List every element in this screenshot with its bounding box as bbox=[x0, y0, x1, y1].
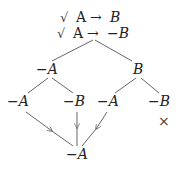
arrow-n5-conclusion bbox=[82, 129, 96, 146]
premise-1: √ A → B bbox=[60, 9, 120, 25]
edge-n1-n3 bbox=[28, 78, 48, 93]
edge-n1-n4 bbox=[52, 78, 73, 93]
node-n1: −A bbox=[36, 61, 58, 77]
premise-2-right: −B bbox=[107, 25, 129, 41]
edge-n2-n5 bbox=[115, 78, 136, 93]
edge-root-n1 bbox=[52, 40, 93, 61]
premise-2-arrow: → bbox=[87, 25, 99, 41]
arrow-n3-mid bbox=[26, 112, 52, 131]
edge-n2-n6 bbox=[141, 78, 159, 93]
node-conclusion: −A bbox=[66, 146, 88, 162]
edge-root-n2 bbox=[95, 40, 132, 61]
check-mark-icon: √ bbox=[57, 26, 66, 41]
node-n3: −A bbox=[7, 93, 29, 109]
tree-canvas: √ A → B √ A → −B −A B −A −B −A −B × bbox=[0, 0, 179, 170]
node-n4: −B bbox=[63, 93, 85, 109]
closed-branch-cross-icon: × bbox=[158, 113, 170, 129]
node-n5: −A bbox=[97, 93, 119, 109]
truth-tree-diagram: √ A → B √ A → −B −A B −A −B −A −B × bbox=[0, 0, 179, 170]
premise-2: √ A → −B bbox=[57, 25, 129, 41]
arrow-n5-mid bbox=[96, 112, 107, 129]
node-n6: −B bbox=[148, 93, 170, 109]
premise-1-left: A bbox=[75, 9, 87, 25]
premise-2-left: A bbox=[72, 25, 84, 41]
premise-1-arrow: → bbox=[90, 9, 102, 25]
premise-1-right: B bbox=[109, 9, 120, 25]
check-mark-icon: √ bbox=[60, 10, 69, 25]
node-n2: B bbox=[132, 61, 143, 77]
arrow-n3-conclusion bbox=[52, 131, 73, 146]
